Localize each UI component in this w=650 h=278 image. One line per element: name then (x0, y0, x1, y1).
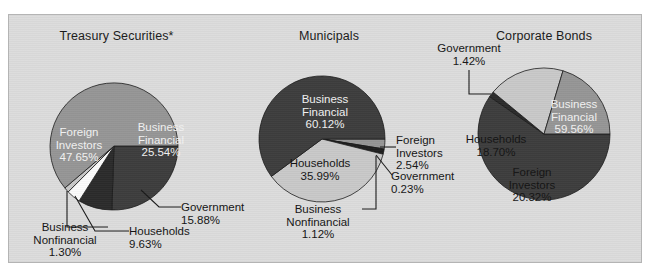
figure-panel: Treasury Securities* Foreign Investors 4… (8, 14, 642, 263)
label-name: Households (129, 225, 190, 237)
slice-label-treasury-foreign-investors: Foreign Investors 47.65% (37, 126, 121, 164)
slice-label-corporate-government: Government 1.42% (418, 42, 520, 67)
label-line-2: Investors (509, 179, 556, 191)
label-value: 35.99% (300, 170, 339, 182)
label-line-1: Business (551, 98, 598, 110)
slice-label-treasury-households: Households 9.63% (129, 225, 209, 250)
label-line-1: Foreign (60, 126, 99, 138)
label-value: 15.88% (181, 214, 220, 226)
pie-chart-corporate-bonds: Corporate Bonds Business Financial 59.56… (434, 15, 642, 263)
label-value: 47.65% (59, 151, 98, 163)
label-line-2: Investors (56, 139, 103, 151)
slice-label-municipals-households: Households 35.99% (276, 157, 364, 182)
label-line-2: Financial (551, 111, 597, 123)
label-line-1: Business (302, 93, 349, 105)
pie-chart-municipals: Municipals Business Financial 60.12% (224, 15, 434, 263)
slice-label-corporate-business-financial: Business Financial 59.56% (530, 98, 618, 136)
slice-label-corporate-households: Households 18.70% (452, 133, 540, 158)
label-line-2: Nonfinancial (33, 234, 96, 246)
label-line-2: Nonfinancial (286, 216, 349, 228)
label-value: 20.32% (512, 191, 551, 203)
label-value: 60.12% (305, 118, 344, 130)
label-value: 1.30% (49, 246, 82, 258)
label-name: Households (290, 157, 351, 169)
slice-label-municipals-business-financial: Business Financial 60.12% (282, 93, 368, 131)
label-value: 18.70% (476, 146, 515, 158)
label-line-1: Foreign (396, 134, 435, 146)
slice-label-municipals-business-nonfinancial: Business Nonfinancial 1.12% (272, 203, 364, 241)
label-line-1: Business (42, 221, 89, 233)
label-value: 1.42% (453, 55, 486, 67)
label-name: Households (466, 133, 527, 145)
label-value: 25.54% (141, 146, 180, 158)
slice-label-corporate-foreign-investors: Foreign Investors 20.32% (493, 166, 571, 204)
label-line-1: Business (295, 203, 342, 215)
label-line-1: Business (138, 121, 185, 133)
slice-label-treasury-business-nonfinancial: Business Nonfinancial 1.30% (19, 221, 111, 259)
label-value: 9.63% (129, 238, 162, 250)
label-value: 59.56% (554, 123, 593, 135)
label-line-1: Foreign (513, 166, 552, 178)
label-value: 0.23% (391, 183, 424, 195)
label-line-2: Financial (302, 106, 348, 118)
leader-line-corporate-government (469, 70, 491, 94)
label-name: Government (437, 42, 500, 54)
label-value: 1.12% (302, 228, 335, 240)
label-line-2: Financial (138, 134, 184, 146)
slice-label-treasury-business-financial: Business Financial 25.54% (121, 121, 201, 159)
pie-chart-treasury-securities: Treasury Securities* Foreign Investors 4… (9, 15, 224, 263)
